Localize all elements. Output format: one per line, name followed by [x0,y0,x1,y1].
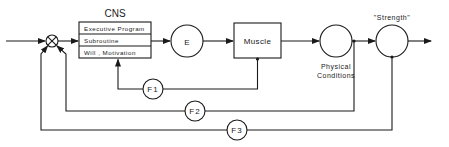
physical-label-line2: Conditions [317,72,355,79]
strength-block: "Strength" [374,14,410,57]
cns-block: CNS Executive Program Subroutine Will , … [79,8,151,58]
physical-conditions-block: Physical Conditions [317,25,355,79]
muscle-block: Muscle [234,23,281,58]
summing-junction [46,35,58,47]
strength-label: "Strength" [374,14,410,22]
e-label: E [184,38,190,47]
e-block: E [171,25,203,57]
muscle-label: Muscle [244,37,272,46]
f2-label: F2 [189,107,200,116]
cns-row-will-motivation: Will , Motivation [84,49,136,56]
cns-title: CNS [104,8,125,19]
f1-label: F1 [147,85,158,94]
physical-label-line1: Physical [321,63,351,71]
f3-label: F3 [231,126,242,135]
cns-row-executive-program: Executive Program [84,25,145,32]
feedback-loop-f1: F1 [118,57,259,99]
control-loop-diagram: CNS Executive Program Subroutine Will , … [0,0,449,147]
cns-row-subroutine: Subroutine [84,37,119,44]
feedback-loop-f3: F3 [41,46,394,140]
